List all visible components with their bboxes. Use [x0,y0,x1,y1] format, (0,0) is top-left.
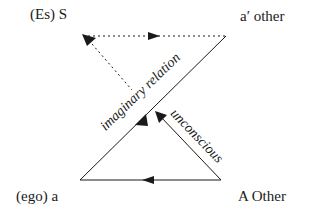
schema-l-diagram: (Es) S a′ other (ego) a A Other imaginar… [0,0,323,222]
node-label-big-a: A Other [238,188,286,205]
arrowhead-down-left-icon [135,114,148,126]
arrowhead-right-icon [148,32,160,40]
node-label-a: (ego) a [16,188,58,205]
node-label-s: (Es) S [30,6,67,23]
node-label-a-prime: a′ other [240,8,285,25]
solid-edge-imaginary [80,36,226,180]
arrowhead-left-icon [142,176,154,184]
dotted-edge-s-unconscious [92,44,132,90]
